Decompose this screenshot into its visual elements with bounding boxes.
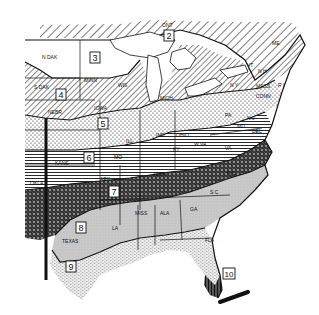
svg-text:8: 8 (78, 223, 83, 233)
svg-text:ALA: ALA (160, 210, 170, 216)
svg-text:LA: LA (112, 225, 119, 231)
svg-text:WIS: WIS (118, 82, 128, 88)
svg-text:N J: N J (247, 115, 255, 121)
svg-text:MASS: MASS (256, 83, 271, 89)
svg-text:VT: VT (247, 62, 253, 68)
svg-text:TEXAS: TEXAS (62, 238, 79, 244)
zone-label-6: 6 (84, 152, 94, 163)
svg-text:S C: S C (210, 189, 219, 195)
svg-text:GA: GA (190, 206, 198, 212)
zone-label-10: 10 (223, 268, 235, 279)
svg-text:OHIO: OHIO (176, 132, 189, 138)
svg-text:N C: N C (227, 170, 236, 176)
svg-text:MO: MO (114, 154, 122, 160)
zone-label-2: 2 (164, 30, 174, 41)
svg-text:FLA: FLA (205, 237, 215, 243)
svg-text:ARK: ARK (100, 176, 111, 182)
svg-text:MINN: MINN (84, 77, 97, 83)
svg-text:2: 2 (166, 31, 171, 41)
hardiness-zone-map: 2 3 4 5 6 7 8 9 10 N DAK S DAK NEBR KANS… (0, 0, 319, 315)
zone-label-7: 7 (109, 186, 119, 197)
svg-text:DEL: DEL (252, 128, 262, 134)
svg-text:KANS: KANS (55, 160, 69, 166)
zone-label-5: 5 (98, 118, 108, 129)
svg-text:9: 9 (68, 262, 73, 272)
zone-label-3: 3 (90, 52, 100, 63)
svg-text:KY: KY (173, 146, 180, 152)
svg-text:TENN: TENN (153, 171, 167, 177)
svg-text:6: 6 (86, 153, 91, 163)
svg-text:PA: PA (225, 112, 232, 118)
zone-label-4: 4 (56, 89, 66, 100)
svg-text:5: 5 (100, 119, 105, 129)
svg-text:S DAK: S DAK (34, 84, 50, 90)
svg-text:10: 10 (225, 270, 234, 279)
svg-text:ILL: ILL (126, 138, 133, 144)
svg-text:N H: N H (258, 68, 267, 74)
svg-text:MICH: MICH (160, 95, 173, 101)
keys-bar (220, 292, 248, 302)
svg-text:MISS: MISS (135, 210, 148, 216)
svg-text:IND: IND (156, 132, 165, 138)
zone-label-8: 8 (76, 222, 86, 233)
zone-label-9: 9 (66, 261, 76, 272)
svg-text:ME: ME (272, 40, 280, 46)
svg-text:CONN: CONN (256, 93, 271, 99)
svg-text:ONT: ONT (162, 22, 173, 28)
svg-text:NEBR: NEBR (48, 109, 62, 115)
svg-text:3: 3 (92, 53, 97, 63)
svg-text:R I: R I (278, 82, 284, 88)
svg-text:7: 7 (111, 187, 116, 197)
svg-text:4: 4 (58, 90, 63, 100)
svg-text:N DAK: N DAK (42, 54, 58, 60)
svg-text:VA: VA (225, 145, 232, 151)
svg-text:N Y: N Y (230, 82, 239, 88)
svg-text:OKLA: OKLA (30, 180, 44, 186)
svg-text:IOWA: IOWA (94, 105, 108, 111)
svg-text:W VA: W VA (194, 141, 207, 147)
svg-text:MD: MD (237, 123, 245, 129)
